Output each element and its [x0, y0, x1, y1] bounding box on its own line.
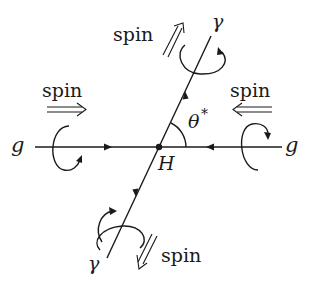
- left-gluon-spin-curl: [53, 126, 82, 170]
- arrow-left-icon: [206, 144, 214, 151]
- left-gluon-spin-label: spin: [42, 79, 82, 101]
- left-spin-double-arrow: [47, 103, 86, 116]
- higgs-vertex: [156, 144, 162, 150]
- right-gluon-label: g: [285, 133, 298, 157]
- right-spin-double-arrow: [233, 103, 272, 116]
- bottom-photon-spin-label: spin: [161, 244, 201, 266]
- right-gluon-spin-label: spin: [230, 79, 270, 101]
- arrow-right-icon: [104, 144, 112, 151]
- top-photon-spin-curl: [180, 45, 225, 74]
- vertex-label: H: [157, 152, 175, 174]
- angle-label: θ: [188, 110, 200, 132]
- bottom-spin-double-arrow: [137, 234, 157, 269]
- bottom-photon-label: γ: [88, 252, 100, 274]
- left-gluon-label: g: [11, 133, 24, 157]
- top-photon-spin-label: spin: [113, 23, 153, 45]
- higgs-spin-diagram: spin γ spin spin g g θ * H γ spin: [0, 0, 313, 292]
- angle-superscript: *: [201, 106, 208, 122]
- top-photon-label: γ: [212, 10, 224, 32]
- angle-arc: [171, 123, 186, 147]
